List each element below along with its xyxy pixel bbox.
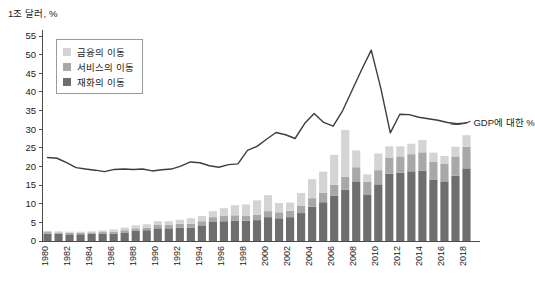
svg-text:2016: 2016 xyxy=(436,246,446,266)
svg-text:2008: 2008 xyxy=(348,246,358,266)
svg-text:1990: 1990 xyxy=(150,246,160,266)
chart-legend: 금융의 이동서비스의 이동재화의 이동 xyxy=(56,39,143,94)
svg-text:2004: 2004 xyxy=(304,246,314,266)
legend-item-label: 재화의 이동 xyxy=(77,75,125,89)
svg-text:50: 50 xyxy=(25,49,36,60)
legend-swatch-icon xyxy=(63,78,71,86)
svg-text:2018: 2018 xyxy=(458,246,468,266)
legend-item: 서비스의 이동 xyxy=(63,59,134,74)
svg-text:10: 10 xyxy=(25,198,36,209)
svg-text:45: 45 xyxy=(25,68,36,79)
svg-text:35: 35 xyxy=(25,105,36,116)
svg-text:2002: 2002 xyxy=(282,246,292,266)
svg-text:1986: 1986 xyxy=(106,246,116,266)
svg-text:20: 20 xyxy=(25,161,36,172)
svg-text:2010: 2010 xyxy=(370,246,380,266)
svg-text:1992: 1992 xyxy=(172,246,182,266)
svg-text:2012: 2012 xyxy=(392,246,402,266)
svg-text:1984: 1984 xyxy=(84,246,94,266)
svg-text:2006: 2006 xyxy=(326,246,336,266)
svg-text:5: 5 xyxy=(31,217,36,228)
svg-text:1982: 1982 xyxy=(62,246,72,266)
legend-swatch-icon xyxy=(63,63,71,71)
svg-text:55: 55 xyxy=(25,30,36,41)
legend-item-label: 서비스의 이동 xyxy=(77,60,134,74)
line-series-annotation: GDP에 대한 % xyxy=(473,115,534,129)
svg-text:1980: 1980 xyxy=(40,246,50,266)
svg-text:25: 25 xyxy=(25,142,36,153)
svg-text:1988: 1988 xyxy=(128,246,138,266)
legend-swatch-icon xyxy=(63,48,71,56)
legend-item: 재화의 이동 xyxy=(63,74,134,89)
svg-text:1996: 1996 xyxy=(216,246,226,266)
svg-text:15: 15 xyxy=(25,179,36,190)
svg-text:2014: 2014 xyxy=(414,246,424,266)
svg-text:30: 30 xyxy=(25,124,36,135)
legend-item-label: 금융의 이동 xyxy=(77,45,125,59)
svg-text:1994: 1994 xyxy=(194,246,204,266)
svg-text:0: 0 xyxy=(31,235,36,246)
svg-text:1998: 1998 xyxy=(238,246,248,266)
legend-item: 금융의 이동 xyxy=(63,44,134,59)
svg-text:40: 40 xyxy=(25,86,36,97)
svg-text:2000: 2000 xyxy=(260,246,270,266)
